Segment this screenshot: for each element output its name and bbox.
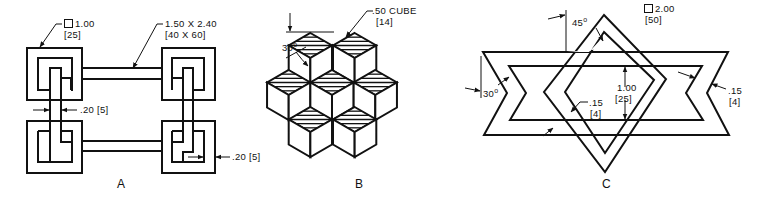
square-frame-bottom-left (27, 100, 82, 173)
connecting-bar-top (82, 68, 162, 79)
label-stroke-width-b: .20 [5] (232, 152, 261, 162)
label-stroke-width-a: .20 [5] (80, 105, 109, 115)
label-band-width-right-in: .15 (728, 86, 742, 96)
square-symbol-icon (644, 4, 653, 13)
band-inner-outline (509, 66, 703, 120)
angle-arrow-30-left (465, 88, 480, 91)
leader-cube-size (346, 11, 373, 37)
degree-symbol: o (293, 41, 297, 48)
square-frame-top-right (162, 48, 215, 136)
label-bar-size-in: 1.50 X 2.40 (165, 19, 217, 29)
square-symbol-icon (64, 19, 73, 28)
dim-band-width-right-b (712, 84, 726, 89)
connecting-bar-bottom (82, 141, 162, 151)
leader-square-size (40, 24, 62, 47)
label-square-size: 1.00 (64, 19, 95, 29)
figure-a-linked-squares (27, 24, 230, 173)
label-band-width-center-in: .15 (589, 98, 603, 108)
square-frame-top-left (27, 48, 82, 136)
square-frame-bottom-right (162, 100, 215, 173)
caption-b: B (355, 177, 363, 191)
band-outer-outline (483, 52, 729, 135)
technical-drawing-canvas (0, 0, 761, 206)
label-cube-size-mm: [14] (376, 17, 393, 27)
label-angle-30: 30o (282, 40, 297, 53)
angle-arrow-45 (548, 15, 565, 19)
label-height-mm: [25] (615, 94, 632, 104)
label-angle-45: 45o (572, 15, 587, 28)
caption-a: A (117, 177, 125, 191)
leader-bar-size (133, 24, 163, 68)
label-band-width-right-mm: [4] (729, 97, 740, 107)
caption-c: C (602, 177, 611, 191)
angle-value: 30 (282, 42, 293, 53)
degree-symbol: o (494, 87, 498, 94)
dim-band-width-right-a (678, 72, 695, 78)
label-square-2in-value: 2.00 (655, 3, 675, 14)
label-band-width-center-mm: [4] (590, 109, 601, 119)
angle-45-value: 45 (572, 17, 583, 28)
angle-30-value: 30 (483, 88, 494, 99)
degree-symbol: o (583, 16, 587, 23)
label-cube-size-in: .50 CUBE (372, 6, 417, 16)
figure-c-interlaced-star (465, 10, 729, 172)
label-angle-30-left: 30o (483, 86, 498, 99)
label-square-2in: 2.00 (644, 4, 675, 14)
label-square-size-mm: [25] (64, 30, 81, 40)
label-square-2in-mm: [50] (645, 15, 662, 25)
label-height-in: 1.00 (617, 83, 637, 93)
label-bar-size-mm: [40 X 60] (165, 30, 206, 40)
label-square-size-in: 1.00 (75, 18, 95, 29)
